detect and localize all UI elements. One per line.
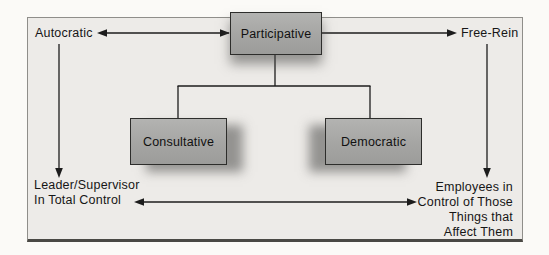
label-leader-control: Leader/Supervisor In Total Control — [34, 178, 140, 208]
label-employees-line1: Employees in — [418, 180, 513, 195]
label-employees-line2: Control of Those — [418, 195, 513, 210]
arrowhead-down-left-icon — [55, 168, 63, 178]
label-free-rein: Free-Rein — [461, 26, 518, 41]
box-consultative-label: Consultative — [143, 135, 214, 149]
label-employees-line4: Affect Them — [418, 225, 513, 240]
box-democratic: Democratic — [325, 118, 422, 165]
diagram-canvas: Participative Consultative Democratic Au… — [0, 0, 549, 255]
label-leader-line1: Leader/Supervisor — [34, 178, 140, 193]
arrowhead-right-icon — [447, 29, 457, 37]
arrowhead-left-icon — [97, 29, 107, 37]
label-employees-control: Employees in Control of Those Things tha… — [418, 180, 513, 240]
arrowhead-bottom-right-icon — [407, 198, 417, 206]
label-leader-line2: In Total Control — [34, 193, 140, 208]
box-democratic-label: Democratic — [341, 135, 406, 149]
box-participative: Participative — [230, 12, 322, 55]
box-participative-label: Participative — [241, 27, 312, 41]
box-consultative: Consultative — [130, 118, 227, 165]
label-autocratic: Autocratic — [35, 26, 93, 41]
arrowhead-into-participative-icon — [220, 29, 230, 37]
label-employees-line3: Things that — [418, 210, 513, 225]
arrowhead-down-right-icon — [483, 168, 491, 178]
